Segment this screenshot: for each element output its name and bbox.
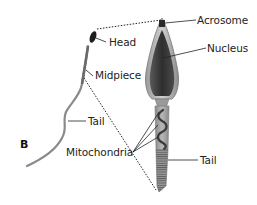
small-head-shape bbox=[88, 30, 98, 43]
panel-letter: B bbox=[20, 139, 28, 150]
label-head: Head bbox=[109, 37, 136, 48]
diagram-artwork bbox=[0, 0, 257, 205]
sperm-diagram: Head Midpiece Tail B Mitochondria Acroso… bbox=[0, 0, 257, 205]
label-tail-large: Tail bbox=[200, 155, 217, 166]
acrosome-leader bbox=[165, 20, 196, 23]
acrosome-shape bbox=[159, 20, 165, 27]
label-acrosome: Acrosome bbox=[197, 15, 248, 26]
head-leader bbox=[96, 38, 106, 42]
label-tail-small: Tail bbox=[88, 116, 105, 127]
small-midpiece-shape bbox=[82, 46, 88, 84]
label-mitochondria: Mitochondria bbox=[66, 147, 133, 158]
large-tail-shape bbox=[156, 150, 168, 192]
leader-lines bbox=[68, 20, 206, 160]
label-midpiece: Midpiece bbox=[95, 70, 141, 81]
label-nucleus: Nucleus bbox=[207, 43, 248, 54]
large-sperm bbox=[145, 18, 178, 192]
midpiece-leader bbox=[86, 70, 93, 76]
